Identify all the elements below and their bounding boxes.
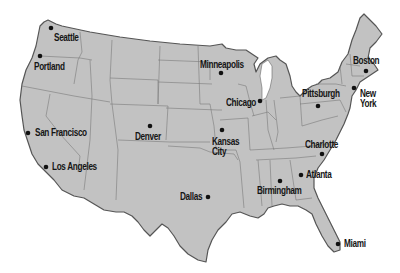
city-dot-pittsburgh [316,104,321,109]
city-label-new-york: New York [360,89,376,109]
city-label-seattle: Seattle [54,33,79,43]
city-label-miami: Miami [344,239,366,249]
us-landmass [20,14,382,262]
city-dot-dallas [206,195,211,200]
city-label-atlanta: Atlanta [306,170,331,180]
city-label-pittsburgh: Pittsburgh [302,89,340,99]
city-dot-miami [336,242,341,247]
city-label-dallas: Dallas [180,192,202,202]
city-label-los-angeles: Los Angeles [52,162,97,172]
city-dot-portland [38,54,43,59]
city-dot-chicago [258,99,263,104]
city-dot-denver [148,124,153,129]
city-label-minneapolis: Minneapolis [200,60,244,70]
city-dot-san-francisco [26,131,31,136]
city-label-san-francisco: San Francisco [35,128,87,138]
city-dot-atlanta [299,173,304,178]
city-dot-los-angeles [44,165,49,170]
city-label-denver: Denver [135,132,161,142]
city-dot-kansas-city [220,128,225,133]
city-dot-birmingham [278,179,283,184]
city-dot-seattle [49,26,54,31]
city-dot-minneapolis [219,71,224,76]
city-label-chicago: Chicago [226,98,256,108]
city-label-boston: Boston [353,56,379,66]
city-label-kansas-city: Kansas City [212,137,239,157]
city-dot-boston [364,69,369,74]
city-label-charlotte: Charlotte [305,140,338,150]
city-label-portland: Portland [34,62,65,72]
city-dot-charlotte [320,152,325,157]
city-dot-new-york [352,86,357,91]
city-label-birmingham: Birmingham [257,186,302,196]
